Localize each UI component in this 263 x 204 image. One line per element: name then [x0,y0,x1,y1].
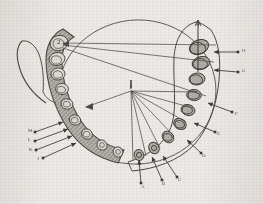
callout-l-anchor-dot [34,140,37,143]
diagram-canvas [0,0,263,204]
callout-j-anchor-dot [42,157,45,160]
callout-m-label: M [28,128,32,133]
marker-1: 1 [129,84,133,91]
marker-2: 2 [57,39,61,46]
callout-h-label: H [242,48,246,53]
callout-h-anchor-dot [237,51,240,54]
marker-4: 4 [196,21,200,28]
callout-m-anchor-dot [34,131,37,134]
callout-k-anchor-dot [35,149,38,152]
callout-j-label: J [37,156,39,161]
callout-g-label: G [242,68,246,73]
callout-e-label: E [217,131,220,136]
callout-f-label: F [235,111,238,116]
callout-c-label: C [178,177,181,182]
callout-f-anchor-dot [231,111,234,114]
callout-a-label: A [141,184,145,189]
callout-d-label: D [202,153,206,158]
scanned-dental-arch-figure: 124 HGFEDCBAMLKJ [0,0,263,204]
callout-e-anchor-dot [214,131,217,134]
callout-k-label: K [29,147,33,152]
callout-l-label: L [28,137,31,142]
callout-g-anchor-dot [237,71,240,74]
callout-b-label: B [162,181,165,186]
